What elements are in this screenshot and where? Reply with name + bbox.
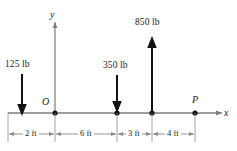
dimension-label-3ft: 3 ft xyxy=(126,129,142,138)
axis-label-y: y xyxy=(50,10,54,20)
point-label-P: P xyxy=(192,95,198,105)
force-arrow-850 xyxy=(147,36,157,113)
point-label-origin: O xyxy=(42,97,49,107)
force-label-850: 850 lb xyxy=(135,18,160,28)
force-arrow-350 xyxy=(112,75,122,113)
force-diagram: 125 lb 350 lb 850 lb O P y x 2 ft 6 ft 3… xyxy=(0,0,237,151)
dimension-label-6ft: 6 ft xyxy=(78,129,94,138)
axis-label-x: x xyxy=(224,108,228,118)
dimension-label-2ft: 2 ft xyxy=(23,129,39,138)
force-label-350: 350 lb xyxy=(103,61,128,71)
force-arrow-125 xyxy=(17,74,27,116)
force-label-125: 125 lb xyxy=(5,60,30,70)
dimension-label-4ft: 4 ft xyxy=(165,129,181,138)
